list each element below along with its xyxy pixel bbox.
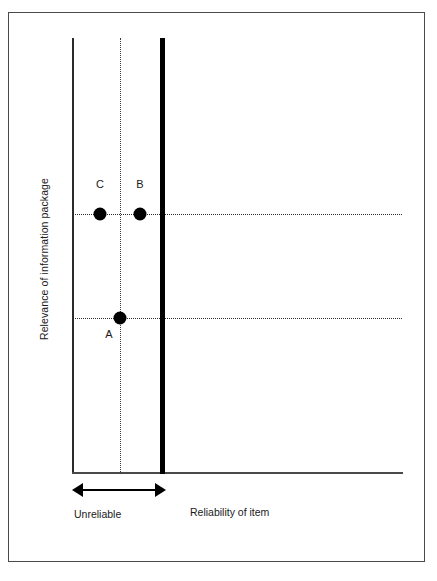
data-point-a-label: A: [105, 328, 112, 340]
unreliable-range-arrow-head-right: [155, 483, 166, 497]
data-point-b-label: B: [136, 178, 143, 190]
y-axis-title: Relevance of information package: [38, 178, 50, 340]
unreliable-range-label: Unreliable: [74, 508, 121, 520]
relevance-guide-upper-line: [72, 214, 402, 215]
unreliable-range-arrow-head-left: [72, 483, 83, 497]
data-point-b[interactable]: [134, 208, 147, 221]
data-point-a[interactable]: [114, 312, 127, 325]
x-axis-title: Reliability of item: [190, 506, 269, 518]
data-point-c-label: C: [96, 178, 104, 190]
x-axis-line: [72, 472, 403, 474]
plot-area: C B A Relevance of information package R…: [0, 0, 437, 581]
point-a-guide-line: [120, 38, 121, 474]
y-axis-line: [72, 38, 74, 474]
unreliable-range-arrow-shaft: [80, 489, 158, 491]
figure-canvas: C B A Relevance of information package R…: [0, 0, 437, 581]
reliability-threshold-line: [160, 38, 165, 474]
data-point-c[interactable]: [94, 208, 107, 221]
